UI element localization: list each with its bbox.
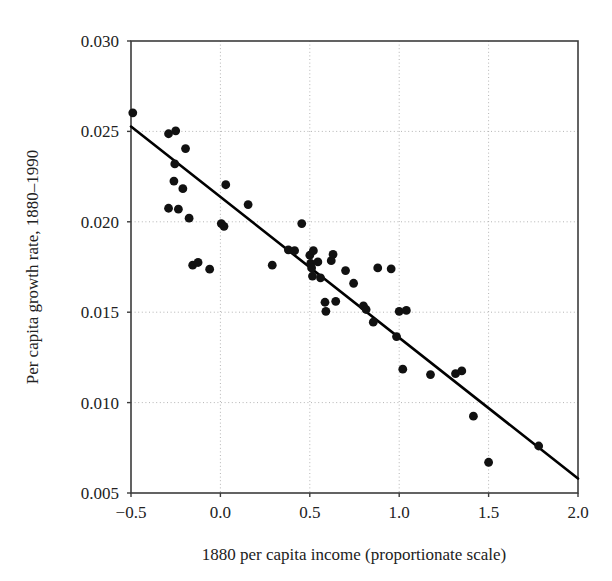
scatter-plot-figure: −0.50.00.51.01.52.0 0.0050.0100.0150.020… xyxy=(0,0,612,581)
data-point xyxy=(309,246,318,255)
data-point xyxy=(321,298,330,307)
x-tick-label: 0.5 xyxy=(299,503,320,522)
data-point xyxy=(171,126,180,135)
data-point xyxy=(469,412,478,421)
x-axis-title: 1880 per capita income (proportionate sc… xyxy=(202,545,506,564)
data-point xyxy=(221,180,230,189)
y-tick-label: 0.025 xyxy=(81,122,119,141)
data-point xyxy=(341,266,350,275)
x-tick-label: −0.5 xyxy=(116,503,147,522)
data-point xyxy=(331,297,340,306)
data-point xyxy=(316,273,325,282)
data-point xyxy=(373,264,382,273)
data-point xyxy=(426,370,435,379)
data-point xyxy=(321,307,330,316)
data-point xyxy=(185,214,194,223)
y-tick-label: 0.030 xyxy=(81,32,119,51)
data-point xyxy=(392,332,401,341)
data-point xyxy=(178,184,187,193)
y-tick-label: 0.020 xyxy=(81,213,119,232)
y-tick-label: 0.005 xyxy=(81,484,119,503)
data-point xyxy=(457,367,466,376)
data-point xyxy=(244,200,253,209)
y-tick-label: 0.015 xyxy=(81,303,119,322)
x-tick-label: 0.0 xyxy=(210,503,231,522)
x-tick-label: 1.0 xyxy=(389,503,410,522)
data-point xyxy=(194,258,203,267)
x-tick-label: 2.0 xyxy=(567,503,588,522)
data-point xyxy=(297,219,306,228)
data-point xyxy=(387,264,396,273)
data-point xyxy=(362,305,371,314)
data-point xyxy=(128,108,137,117)
data-point xyxy=(290,246,299,255)
data-point xyxy=(181,144,190,153)
data-point xyxy=(369,318,378,327)
x-tick-label: 1.5 xyxy=(478,503,499,522)
y-axis-title: Per capita growth rate, 1880–1990 xyxy=(23,150,42,385)
data-point xyxy=(534,442,543,451)
data-point xyxy=(398,365,407,374)
data-point xyxy=(268,261,277,270)
data-point xyxy=(349,279,358,288)
data-point xyxy=(220,222,229,231)
data-point xyxy=(170,177,179,186)
data-point xyxy=(205,265,214,274)
data-point xyxy=(308,272,317,281)
data-point xyxy=(402,306,411,315)
data-point xyxy=(174,205,183,214)
data-point xyxy=(170,160,179,169)
data-point xyxy=(329,250,338,259)
data-point xyxy=(484,458,493,467)
data-point xyxy=(313,258,322,267)
y-tick-label: 0.010 xyxy=(81,394,119,413)
data-point xyxy=(164,204,173,213)
